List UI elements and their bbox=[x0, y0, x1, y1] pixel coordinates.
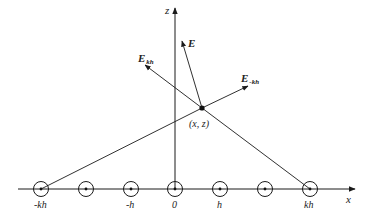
label-E-minus-kh: E-kh bbox=[240, 72, 259, 86]
x-axis-label: x bbox=[345, 193, 351, 205]
field-diagram: x z (x, z) E Ekh E-kh -kh bbox=[0, 0, 369, 221]
tick-label-neg-kh: -kh bbox=[34, 199, 47, 210]
point-label: (x, z) bbox=[189, 118, 210, 130]
vector-E-kh bbox=[145, 65, 202, 108]
vector-E-minus-kh bbox=[202, 86, 248, 108]
tick-label-neg-h: -h bbox=[126, 199, 134, 210]
vector-E bbox=[182, 41, 202, 108]
tick-label-h: h bbox=[217, 199, 222, 210]
tick-label-kh: kh bbox=[304, 199, 313, 210]
ray-from-neg-kh bbox=[41, 108, 202, 189]
label-E-kh: Ekh bbox=[137, 52, 154, 66]
z-axis-label: z bbox=[164, 4, 170, 16]
ray-from-kh bbox=[202, 108, 310, 189]
field-point bbox=[199, 105, 204, 110]
tick-label-zero: 0 bbox=[172, 199, 177, 210]
label-E: E bbox=[187, 37, 195, 49]
